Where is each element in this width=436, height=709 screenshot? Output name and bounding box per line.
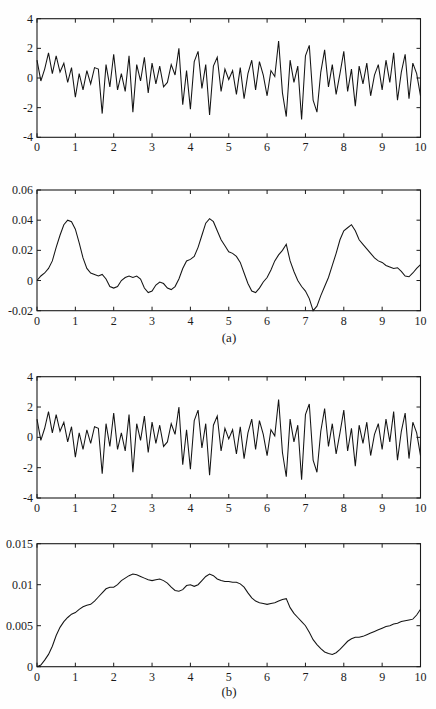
axis-box <box>37 190 421 311</box>
y-tick-label: 0 <box>27 274 33 288</box>
y-tick-label: -4 <box>23 130 33 144</box>
x-tick-label: 5 <box>226 670 232 684</box>
x-tick-label: 1 <box>72 670 78 684</box>
subplot-noisy-signal-a: 012345678910420-2-4 <box>23 12 427 155</box>
x-tick-label: 4 <box>187 501 193 515</box>
x-tick-label: 6 <box>264 140 270 154</box>
x-tick-label: 6 <box>264 314 270 328</box>
y-tick-label: 0 <box>27 71 33 85</box>
x-tick-label: 10 <box>415 670 427 684</box>
x-tick-label: 2 <box>111 501 117 515</box>
x-tick-label: 2 <box>111 314 117 328</box>
y-tick-label: 0.06 <box>12 183 33 197</box>
x-tick-label: 4 <box>187 670 193 684</box>
x-tick-label: 10 <box>415 314 427 328</box>
x-tick-label: 9 <box>379 501 385 515</box>
y-tick-label: -2 <box>23 101 33 115</box>
subplot-smooth-output-b: 0123456789100.0150.010.0050 <box>6 537 427 684</box>
x-tick-label: 10 <box>415 140 427 154</box>
subplot-smooth-output-a: 0123456789100.060.040.020-0.02 <box>8 183 427 328</box>
y-tick-label: 0.01 <box>12 578 33 592</box>
x-tick-label: 9 <box>379 670 385 684</box>
y-tick-label: -2 <box>23 461 33 475</box>
x-tick-label: 5 <box>226 501 232 515</box>
noisy-signal-line <box>37 41 421 120</box>
x-tick-label: 4 <box>187 140 193 154</box>
figure: 012345678910420-2-4 0123456789100.060.04… <box>0 0 436 709</box>
x-tick-label: 0 <box>34 140 40 154</box>
smooth-output-line <box>37 219 421 311</box>
y-tick-label: 0.04 <box>12 213 33 227</box>
x-tick-label: 8 <box>341 501 347 515</box>
y-tick-label: 0.02 <box>12 243 33 257</box>
x-tick-label: 7 <box>302 501 308 515</box>
x-tick-label: 7 <box>302 670 308 684</box>
x-tick-label: 3 <box>149 140 155 154</box>
x-tick-label: 1 <box>72 501 78 515</box>
axis-box <box>37 544 421 667</box>
x-tick-label: 7 <box>302 314 308 328</box>
x-tick-label: 3 <box>149 314 155 328</box>
x-tick-label: 1 <box>72 314 78 328</box>
y-tick-label: 4 <box>27 12 33 26</box>
x-tick-label: 5 <box>226 314 232 328</box>
y-tick-label: 0 <box>27 430 33 444</box>
x-tick-label: 3 <box>149 670 155 684</box>
y-tick-label: 4 <box>27 370 33 384</box>
x-tick-label: 1 <box>72 140 78 154</box>
noisy-signal-line <box>37 399 421 479</box>
smooth-output-line <box>37 574 421 667</box>
y-tick-label: 0.015 <box>6 537 33 551</box>
x-tick-label: 8 <box>341 140 347 154</box>
x-tick-label: 8 <box>341 314 347 328</box>
x-tick-label: 0 <box>34 670 40 684</box>
figure-label-b: (b) <box>37 684 421 700</box>
y-tick-label: 0 <box>27 660 33 674</box>
subplot-noisy-signal-b: 012345678910420-2-4 <box>23 370 427 515</box>
x-tick-label: 3 <box>149 501 155 515</box>
x-tick-label: 10 <box>415 501 427 515</box>
x-tick-label: 9 <box>379 140 385 154</box>
figure-label-a: (a) <box>37 330 421 346</box>
y-tick-label: 0.005 <box>6 619 33 633</box>
y-tick-label: 2 <box>27 400 33 414</box>
x-tick-label: 7 <box>302 140 308 154</box>
y-tick-label: -0.02 <box>8 304 33 318</box>
x-tick-label: 2 <box>111 140 117 154</box>
chart-canvas: 012345678910420-2-4 0123456789100.060.04… <box>0 0 436 709</box>
y-tick-label: 2 <box>27 41 33 55</box>
x-tick-label: 2 <box>111 670 117 684</box>
x-tick-label: 6 <box>264 501 270 515</box>
x-tick-label: 8 <box>341 670 347 684</box>
x-tick-label: 5 <box>226 140 232 154</box>
x-tick-label: 0 <box>34 501 40 515</box>
x-tick-label: 6 <box>264 670 270 684</box>
x-tick-label: 4 <box>187 314 193 328</box>
x-tick-label: 9 <box>379 314 385 328</box>
x-tick-label: 0 <box>34 314 40 328</box>
y-tick-label: -4 <box>23 491 33 505</box>
